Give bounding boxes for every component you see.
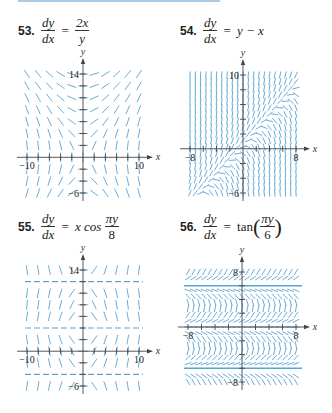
- slope-segment: [284, 379, 287, 385]
- slope-segment: [274, 342, 275, 348]
- slope-segment: [200, 151, 201, 157]
- slope-segment: [70, 165, 74, 173]
- slope-segment: [192, 379, 195, 385]
- slope-segment: [203, 269, 206, 275]
- y-axis-label: y: [240, 47, 246, 58]
- x-axis-arrow-icon: [304, 325, 310, 329]
- slope-segment: [215, 190, 218, 196]
- slope-segment: [269, 72, 270, 78]
- slope-segment: [279, 342, 280, 348]
- slope-segment: [221, 151, 223, 157]
- slope-segment: [204, 342, 205, 348]
- slope-segment: [102, 72, 110, 77]
- slope-segment: [196, 374, 201, 378]
- slope-segment: [225, 348, 227, 354]
- slope-segment: [47, 118, 51, 126]
- slope-segment: [236, 299, 238, 305]
- slope-segment: [251, 379, 254, 385]
- slope-segment: [245, 355, 249, 360]
- slope-segment: [268, 105, 271, 111]
- slope-segment: [216, 98, 217, 104]
- slope-segment: [280, 177, 281, 183]
- slope-segment: [251, 269, 254, 275]
- slope-segment: [234, 332, 240, 335]
- slope-segment: [283, 92, 287, 97]
- slope-segment: [274, 144, 275, 150]
- slope-segment: [126, 117, 129, 125]
- slope-segment: [219, 312, 223, 317]
- slope-segment: [279, 85, 281, 91]
- slope-segment: [279, 348, 281, 354]
- slope-segment: [103, 129, 107, 137]
- slope-segment: [139, 141, 140, 150]
- slope-segment: [278, 379, 281, 385]
- slope-segment: [218, 332, 224, 335]
- slope-segment: [251, 139, 257, 142]
- slope-field-53: −101014−6xy: [17, 46, 161, 201]
- slope-segment: [208, 269, 211, 275]
- slope-segment: [200, 118, 201, 124]
- slope-segment: [285, 144, 286, 150]
- slope-segment: [218, 319, 224, 322]
- slope-segment: [126, 189, 129, 197]
- slope-segment: [90, 96, 98, 100]
- slope-segment: [258, 342, 259, 348]
- slope-segment: [278, 269, 281, 275]
- slope-segment: [37, 117, 40, 125]
- slope-segment: [269, 164, 270, 170]
- slope-segment: [277, 319, 283, 322]
- slope-segment: [258, 157, 259, 163]
- slope-segment: [258, 98, 259, 104]
- slope-segment: [102, 95, 109, 101]
- x-axis-label: x: [155, 151, 161, 162]
- slope-segment: [278, 355, 282, 360]
- slope-segment: [289, 86, 293, 91]
- slope-segment: [115, 118, 119, 126]
- slope-segment: [200, 111, 201, 117]
- slope-segment: [253, 72, 254, 78]
- slope-segment: [284, 299, 286, 305]
- slope-segment: [127, 177, 129, 186]
- slope-segment: [223, 332, 229, 335]
- slope-segment: [263, 105, 265, 111]
- slope-segment: [236, 138, 239, 144]
- slope-segment: [257, 269, 260, 275]
- slope-segment: [247, 342, 248, 348]
- slope-segment: [246, 131, 250, 136]
- y-max-label: 8: [233, 267, 238, 278]
- slope-segment: [253, 92, 254, 98]
- slope-segment: [207, 294, 211, 299]
- slope-segment: [214, 184, 218, 189]
- slope-segment: [263, 299, 265, 305]
- slope-segment: [208, 337, 212, 342]
- slope-segment: [232, 118, 233, 124]
- x-max-label: 8: [294, 330, 299, 341]
- slope-segment: [103, 189, 108, 196]
- slope-segment: [258, 170, 259, 176]
- slope-segment: [208, 312, 212, 317]
- slope-segment: [138, 382, 139, 391]
- slope-segment: [196, 332, 202, 335]
- slope-segment: [236, 164, 239, 170]
- slope-segment: [69, 289, 74, 296]
- slope-segment: [199, 177, 201, 183]
- slope-segment: [267, 379, 270, 385]
- slope-segment: [69, 359, 74, 366]
- slope-segment: [221, 124, 222, 130]
- slope-segment: [225, 171, 229, 176]
- slope-segment: [70, 141, 74, 149]
- slope-segment: [209, 348, 211, 354]
- slope-segment: [198, 299, 200, 305]
- slope-segment: [245, 276, 250, 280]
- slope-segment: [268, 299, 270, 305]
- slope-segment: [223, 276, 228, 280]
- slope-segment: [211, 131, 212, 137]
- slope-segment: [219, 348, 221, 354]
- slope-segment: [280, 150, 281, 156]
- slope-segment: [283, 312, 287, 317]
- slope-segment: [104, 266, 107, 275]
- slope-segment: [251, 294, 255, 299]
- slope-segment: [246, 299, 248, 305]
- slope-segment: [294, 294, 298, 299]
- slope-segment: [285, 170, 286, 176]
